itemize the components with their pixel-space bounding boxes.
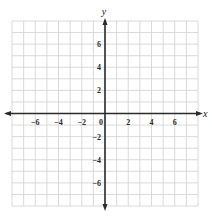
x-tick-label: −6 [31,118,40,127]
x-tick-label: 4 [150,118,154,127]
y-tick-label: 4 [97,63,101,72]
x-tick-label: −4 [54,118,63,127]
y-tick-label: 6 [97,40,101,49]
x-axis-left-arrow-icon [4,111,11,116]
y-axis-down-arrow-icon [103,204,108,211]
y-axis-label: y [101,6,107,17]
x-axis-label: x [202,108,208,119]
y-axis-up-arrow-icon [103,18,108,25]
coordinate-plane: −6−4−20246642−2−4−6 x y [0,0,210,221]
y-tick-label: −6 [92,179,101,188]
x-tick-label: −2 [77,118,86,127]
x-tick-label: 2 [126,118,130,127]
x-tick-label: 0 [99,118,103,127]
x-axis-right-arrow-icon [196,111,203,116]
y-tick-label: −2 [92,133,101,142]
y-tick-label: −4 [92,156,101,165]
x-tick-label: 6 [173,118,177,127]
axes [4,18,203,211]
y-tick-label: 2 [97,86,101,95]
